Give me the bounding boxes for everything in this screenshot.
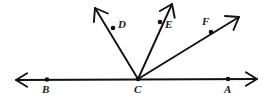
point-dot-e: [158, 20, 163, 25]
ray-cd-segment: [95, 8, 138, 79]
point-label-a: A: [224, 84, 231, 95]
point-dot-f: [209, 30, 214, 35]
point-label-b: B: [42, 84, 49, 95]
ray-cd: [94, 8, 138, 79]
point-dot-b: [45, 77, 50, 82]
point-dots: [45, 20, 231, 82]
point-dot-d: [111, 26, 116, 31]
point-label-c: C: [134, 84, 141, 95]
point-dot-c: [136, 77, 141, 82]
ray-cf-segment: [138, 17, 239, 79]
point-label-e: E: [165, 19, 172, 30]
point-label-f: F: [202, 16, 209, 27]
point-dot-a: [226, 77, 231, 82]
geometry-figure: B C A D E F: [0, 0, 267, 105]
point-label-d: D: [118, 19, 126, 30]
